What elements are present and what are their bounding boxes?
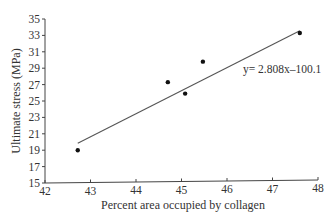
trendline-path	[78, 31, 300, 143]
x-tick-label: 44	[130, 184, 142, 196]
y-tick-label: 23	[29, 111, 41, 123]
data-points	[76, 31, 302, 153]
y-tick-label: 29	[29, 62, 41, 74]
data-point	[166, 80, 170, 84]
x-tick-label: 45	[176, 184, 188, 196]
x-tick-label: 48	[312, 182, 324, 194]
y-tick-label: 25	[29, 95, 41, 107]
trendline-equation: y= 2.808x–100.1	[243, 63, 322, 76]
y-tick-label: 17	[29, 161, 41, 173]
trendline	[78, 31, 300, 143]
x-tick-label: 43	[85, 185, 97, 197]
x-tick-label: 47	[267, 183, 279, 195]
chart-svg: 151719212325272931333542434445464748 y= …	[0, 0, 333, 221]
y-tick-label: 33	[29, 29, 41, 41]
y-tick-label: 31	[29, 46, 41, 58]
y-axis-label: Ultimate stress (MPa)	[9, 48, 23, 153]
y-tick-label: 19	[29, 144, 41, 156]
data-point	[183, 91, 187, 95]
y-tick-label: 35	[29, 13, 41, 25]
data-point	[76, 148, 80, 152]
x-tick-label: 42	[39, 185, 51, 197]
x-axis-label: Percent area occupied by collagen	[101, 198, 265, 212]
y-tick-label: 27	[29, 79, 41, 91]
x-tick-label: 46	[221, 183, 233, 195]
data-point	[201, 59, 205, 63]
scatter-chart: 151719212325272931333542434445464748 y= …	[0, 0, 333, 221]
y-tick-label: 21	[29, 128, 41, 140]
data-point	[298, 31, 302, 35]
